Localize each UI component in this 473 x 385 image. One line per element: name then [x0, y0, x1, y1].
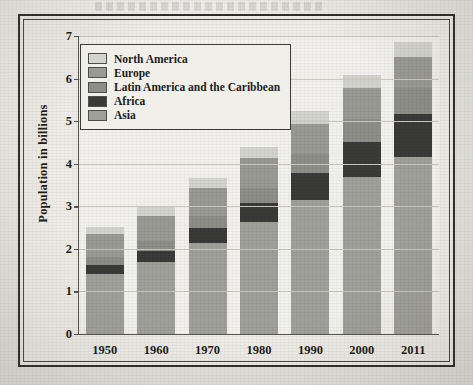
legend-item[interactable]: Asia	[88, 109, 280, 122]
bar-segment[interactable]	[394, 57, 432, 88]
scanned-page: Population in billions 19501960197019801…	[0, 0, 473, 385]
x-axis-tick-label: 1950	[92, 343, 117, 358]
bar-segment[interactable]	[137, 251, 175, 262]
bar-segment[interactable]	[86, 234, 124, 257]
legend-item-label: Asia	[114, 109, 136, 122]
legend-item-label: Africa	[114, 95, 145, 108]
bar-segment[interactable]	[189, 228, 227, 243]
y-axis-tick-label: 5	[66, 114, 72, 129]
legend-swatch-icon	[88, 110, 107, 121]
bar-segment[interactable]	[137, 207, 175, 216]
chart-area: Population in billions 19501960197019801…	[20, 16, 457, 369]
chart-legend: North AmericaEuropeLatin America and the…	[80, 44, 291, 130]
page-bleed-text	[95, 2, 325, 11]
y-axis-tick-label: 6	[66, 71, 72, 86]
bar-segment[interactable]	[240, 188, 278, 203]
x-axis-tick-label: 1990	[298, 343, 323, 358]
bar-segment[interactable]	[394, 88, 432, 114]
legend-item-label: Europe	[114, 67, 150, 80]
bar-segment[interactable]	[240, 222, 278, 334]
y-axis-tick-mark	[74, 334, 79, 335]
gridline	[79, 164, 439, 165]
bar-segment[interactable]	[291, 124, 329, 155]
bar-segment[interactable]	[291, 200, 329, 334]
y-axis-tick-mark	[74, 36, 79, 37]
bar-segment[interactable]	[240, 147, 278, 158]
legend-item-label: North America	[114, 53, 188, 66]
bar-segment[interactable]	[343, 142, 381, 177]
bar-segment[interactable]	[189, 178, 227, 188]
y-axis-tick-label: 2	[66, 241, 72, 256]
y-axis-tick-label: 4	[66, 156, 72, 171]
x-axis-tick-label: 1960	[144, 343, 169, 358]
y-axis-tick-mark	[74, 164, 79, 165]
bar-segment[interactable]	[189, 243, 227, 334]
x-axis-tick-label: 1970	[195, 343, 220, 358]
bar-segment[interactable]	[240, 158, 278, 188]
bar-segment[interactable]	[86, 265, 124, 275]
y-axis-tick-label: 7	[66, 29, 72, 44]
bar-segment[interactable]	[189, 188, 227, 216]
legend-swatch-icon	[88, 96, 107, 107]
bar-segment[interactable]	[394, 42, 432, 57]
bar-segment[interactable]	[343, 88, 381, 119]
y-axis-title: Population in billions	[36, 79, 51, 249]
bar-segment[interactable]	[86, 257, 124, 264]
legend-item-label: Latin America and the Caribbean	[114, 81, 280, 94]
bar-column[interactable]: 2000	[343, 36, 381, 334]
figure-frame: Population in billions 19501960197019801…	[18, 14, 455, 367]
legend-item[interactable]: Africa	[88, 95, 280, 108]
bar-segment[interactable]	[86, 227, 124, 234]
bar-column[interactable]: 2011	[394, 36, 432, 334]
legend-swatch-icon	[88, 82, 107, 93]
y-axis-tick-label: 3	[66, 199, 72, 214]
gridline	[79, 291, 439, 292]
gridline	[79, 249, 439, 250]
bar-segment[interactable]	[343, 75, 381, 89]
x-axis-tick-label: 1980	[246, 343, 271, 358]
bar-segment[interactable]	[189, 216, 227, 228]
bar-segment[interactable]	[343, 119, 381, 141]
bar-segment[interactable]	[137, 262, 175, 334]
legend-swatch-icon	[88, 67, 107, 78]
y-axis-tick-mark	[74, 206, 79, 207]
y-axis-tick-mark	[74, 79, 79, 80]
y-axis-tick-mark	[74, 291, 79, 292]
bar-segment[interactable]	[343, 177, 381, 335]
bar-column[interactable]: 1990	[291, 36, 329, 334]
y-axis-tick-label: 0	[66, 327, 72, 342]
gridline	[79, 36, 439, 37]
bar-segment[interactable]	[291, 173, 329, 200]
y-axis-tick-mark	[74, 121, 79, 122]
x-axis-tick-label: 2000	[349, 343, 374, 358]
y-axis-tick-label: 1	[66, 284, 72, 299]
gridline	[79, 206, 439, 207]
bar-segment[interactable]	[86, 274, 124, 334]
legend-item[interactable]: Europe	[88, 67, 280, 80]
x-axis-tick-label: 2011	[401, 343, 425, 358]
bar-segment[interactable]	[137, 216, 175, 242]
legend-item[interactable]: Latin America and the Caribbean	[88, 81, 280, 94]
legend-item[interactable]: North America	[88, 53, 280, 66]
bar-segment[interactable]	[394, 157, 432, 334]
legend-swatch-icon	[88, 53, 107, 64]
y-axis-tick-mark	[74, 249, 79, 250]
